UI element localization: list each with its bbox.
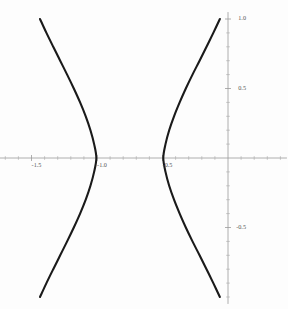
x-tick-label: -0.5 xyxy=(163,161,173,168)
x-tick-label: -1.5 xyxy=(32,161,42,168)
y-tick-label: 1.0 xyxy=(238,14,246,21)
y-tick-label: 0.5 xyxy=(238,84,246,91)
y-axis-tick-labels: 1.00.5-0.5 xyxy=(236,14,246,230)
x-tick-label: -1.0 xyxy=(97,161,107,168)
plot-canvas: -1.5-1.0-0.5 1.00.5-0.5 xyxy=(0,0,288,309)
y-tick-label: -0.5 xyxy=(236,223,246,230)
x-axis-tick-labels: -1.5-1.0-0.5 xyxy=(32,161,173,168)
plot-figure: -1.5-1.0-0.5 1.00.5-0.5 xyxy=(0,0,288,309)
